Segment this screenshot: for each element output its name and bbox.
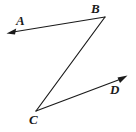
vertex-label-c: C — [29, 113, 38, 126]
vertex-label-a: A — [16, 14, 25, 27]
vertex-label-d: D — [110, 83, 119, 96]
segment-bc-line — [36, 17, 105, 111]
geometry-figure: A B C D — [0, 0, 136, 132]
arrowhead-a-icon — [7, 29, 17, 35]
ray-cd-line — [36, 79, 121, 111]
ray-ba-line — [13, 17, 105, 32]
arrowhead-d-icon — [118, 76, 128, 83]
vertex-label-b: B — [91, 2, 100, 15]
